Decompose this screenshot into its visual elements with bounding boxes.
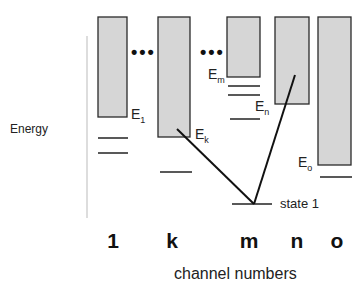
channel-label-k: k — [166, 229, 178, 252]
continuum-box-k — [158, 17, 190, 137]
ellipsis-1: ••• — [131, 42, 156, 62]
threshold-label-ek: Ek — [195, 126, 209, 145]
channel-label-o: o — [331, 229, 344, 252]
channel-label-m: m — [240, 229, 259, 252]
energy-level-diagram: Energy E1 ••• Ek ••• Em En Eo state 1 — [0, 0, 361, 288]
transition-arrow-k — [177, 129, 254, 204]
threshold-label-en: En — [255, 98, 269, 117]
x-axis-label: channel numbers — [174, 265, 297, 282]
threshold-label-em: Em — [208, 66, 225, 85]
channel-label-n: n — [291, 229, 304, 252]
threshold-label-eo: Eo — [298, 154, 312, 173]
threshold-label-e1: E1 — [131, 106, 145, 125]
continuum-box-o — [318, 17, 351, 165]
state-1-label: state 1 — [280, 196, 319, 211]
channel-n: En — [255, 17, 309, 117]
continuum-box-m — [227, 17, 260, 77]
channel-1: E1 — [98, 17, 145, 153]
channel-k: Ek — [158, 17, 209, 172]
energy-axis-label: Energy — [10, 122, 48, 136]
continuum-box-n — [275, 17, 309, 104]
channel-label-1: 1 — [107, 229, 119, 252]
continuum-box-1 — [98, 17, 127, 117]
channel-m: Em — [208, 17, 260, 119]
ellipsis-2: ••• — [200, 42, 225, 62]
